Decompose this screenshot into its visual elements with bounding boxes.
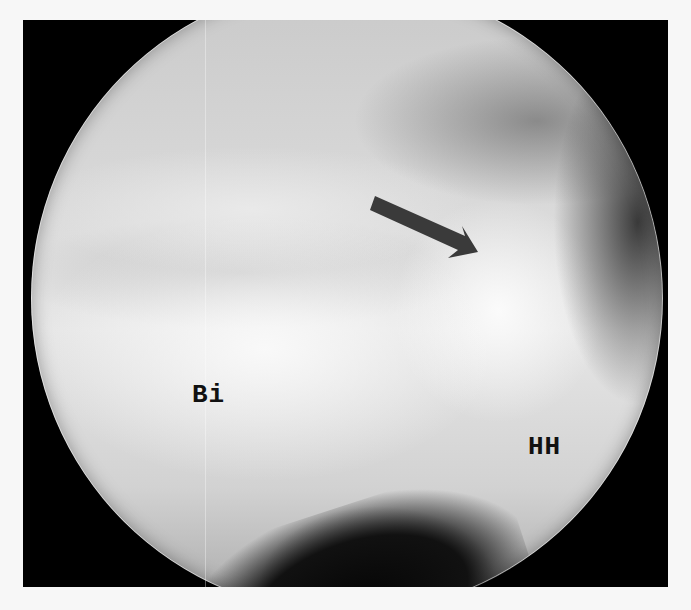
label-humeral-head: HH	[528, 432, 561, 462]
label-biceps: Bi	[192, 380, 225, 410]
scope-rim	[31, 20, 663, 587]
arrow-icon	[350, 188, 480, 268]
arthroscopic-view	[31, 20, 663, 587]
scan-line-artifact	[205, 20, 206, 587]
image-frame	[23, 20, 668, 587]
